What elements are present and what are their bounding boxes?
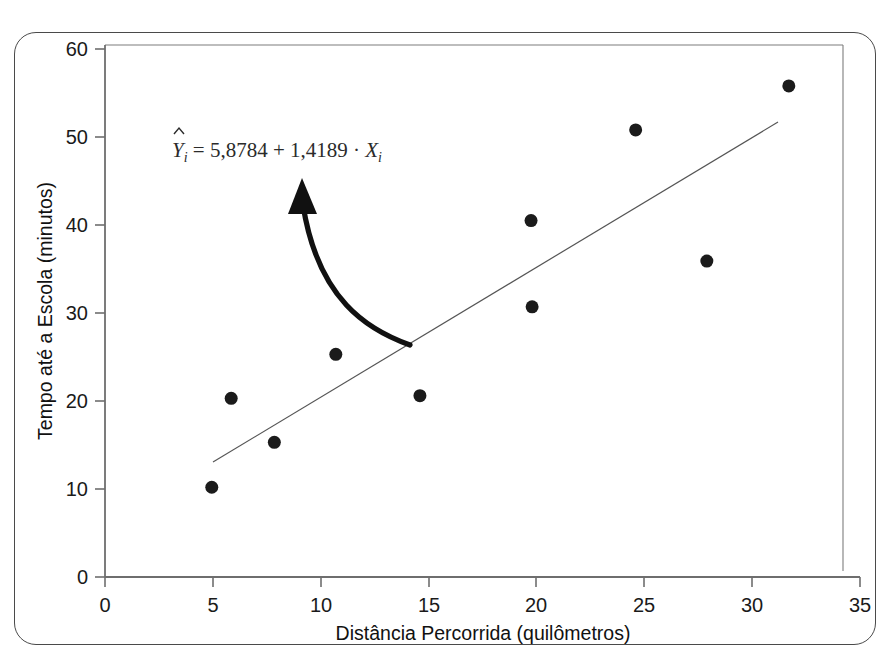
scatter-point [700,255,713,268]
figure-root: 60 50 40 30 20 10 0 0 5 10 15 20 25 30 3… [0,0,891,672]
equation-hat-accent [174,128,184,134]
scatter-plot: 60 50 40 30 20 10 0 0 5 10 15 20 25 30 3… [0,0,891,672]
annotation-arrow [288,178,410,345]
scatter-point [413,389,426,402]
y-tick-label: 40 [66,214,88,236]
x-tick-label: 5 [207,594,218,616]
scatter-point [629,123,642,136]
scatter-point [526,300,539,313]
x-tick-label: 25 [633,594,655,616]
y-tick-label: 20 [66,390,88,412]
y-tick-labels: 60 50 40 30 20 10 0 [66,38,88,588]
regression-equation-annotation: Yi = 5,8784 + 1,4189 · Xi [172,138,382,165]
y-axis-title: Tempo até a Escola (minutos) [34,182,56,440]
equation-x-var: X [364,138,379,162]
equation-plus: + [268,138,290,162]
y-tick-label: 10 [66,478,88,500]
y-tick-label: 0 [77,566,88,588]
scatter-point [782,79,795,92]
scatter-point [525,214,538,227]
equation-slope: 1,4189 [290,138,348,162]
x-tick-label: 30 [741,594,763,616]
x-axis [105,577,860,587]
scatter-point [205,481,218,494]
x-tick-labels: 0 5 10 15 20 25 30 35 [99,594,871,616]
y-tick-label: 60 [66,38,88,60]
scatter-point [268,436,281,449]
regression-trendline [213,122,778,462]
scatter-point [225,392,238,405]
equation-dot: · [348,138,366,162]
y-tick-label: 50 [66,126,88,148]
y-tick-label: 30 [66,302,88,324]
equation-equals: = [188,138,210,162]
x-axis-title: Distância Percorrida (quilômetros) [336,622,631,644]
y-axis [95,45,105,577]
scatter-point [329,348,342,361]
equation-subscript-i-2: i [378,150,382,165]
equation-intercept: 5,8784 [210,138,268,162]
x-tick-label: 20 [525,594,547,616]
x-tick-label: 15 [418,594,440,616]
x-tick-label: 10 [310,594,332,616]
x-tick-label: 35 [849,594,871,616]
x-tick-label: 0 [99,594,110,616]
